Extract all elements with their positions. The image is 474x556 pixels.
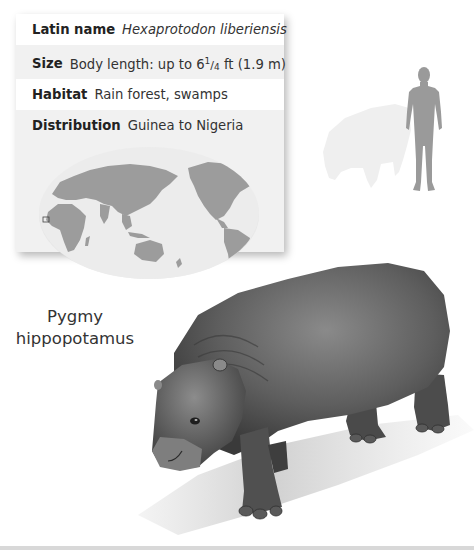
size-value-post: ft (1.9 m) <box>220 57 286 72</box>
fact-label: Size <box>32 56 63 71</box>
fact-row-latin-name: Latin name Hexaprotodon liberiensis <box>16 14 284 45</box>
pygmy-hippo-illustration <box>138 255 474 545</box>
fact-row-size: Size Body length: up to 61/4 ft (1.9 m) <box>16 48 284 79</box>
fact-label: Distribution <box>32 118 121 133</box>
eye <box>190 418 200 425</box>
fact-label: Latin name <box>32 22 115 37</box>
fact-value: Guinea to Nigeria <box>128 118 244 133</box>
fact-row-distribution: Distribution Guinea to Nigeria <box>16 110 284 141</box>
fact-value: Rain forest, swamps <box>94 87 227 102</box>
species-name: Pygmy hippopotamus <box>0 306 150 350</box>
fact-label: Habitat <box>32 87 87 102</box>
size-value-pre: Body length: up to 6 <box>70 57 205 72</box>
fact-value: Body length: up to 61/4 ft (1.9 m) <box>70 56 286 72</box>
scale-comparison <box>315 60 465 200</box>
bottom-divider <box>0 546 474 550</box>
species-name-line2: hippopotamus <box>0 328 150 350</box>
fact-row-habitat: Habitat Rain forest, swamps <box>16 79 284 110</box>
human-silhouette-icon <box>406 67 442 191</box>
hippo-silhouette-icon <box>323 104 411 188</box>
species-name-line1: Pygmy <box>0 306 150 328</box>
fact-value: Hexaprotodon liberiensis <box>122 22 287 37</box>
